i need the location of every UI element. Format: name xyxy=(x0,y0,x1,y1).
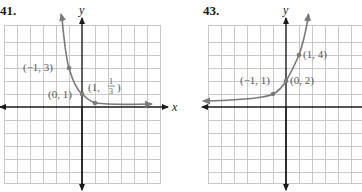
svg-text:3: 3 xyxy=(109,87,113,96)
svg-text:(1,: (1, xyxy=(88,81,100,94)
label-point-0-1: (0, 1) xyxy=(48,88,72,101)
graphs-canvas: y x (−1, 3) (0, 1) (1, 1 3 ) xyxy=(0,0,362,192)
x-axis-label-41: x xyxy=(171,100,178,114)
label-point-neg1-3: (−1, 3) xyxy=(23,61,53,74)
svg-text:): ) xyxy=(117,81,121,94)
y-axis-label-43: y xyxy=(282,3,289,17)
label-point-1-4: (1, 4) xyxy=(303,48,327,61)
point-0-2 xyxy=(284,79,289,84)
point-0-1 xyxy=(80,92,85,97)
label-point-1-third: (1, 1 3 ) xyxy=(88,77,121,96)
label-point-0-2: (0, 2) xyxy=(290,74,314,87)
label-point-neg1-1: (−1, 1) xyxy=(240,74,270,87)
point-neg1-1 xyxy=(271,92,276,97)
point-1-4 xyxy=(297,53,302,58)
figure-number-43: 43. xyxy=(203,3,219,19)
point-neg1-3 xyxy=(67,66,72,71)
grid-43 xyxy=(208,25,362,184)
point-1-third xyxy=(93,101,98,106)
curve-41 xyxy=(62,18,152,104)
svg-text:1: 1 xyxy=(109,77,113,86)
curve-43 xyxy=(204,18,308,101)
y-axis-label-41: y xyxy=(78,3,85,17)
